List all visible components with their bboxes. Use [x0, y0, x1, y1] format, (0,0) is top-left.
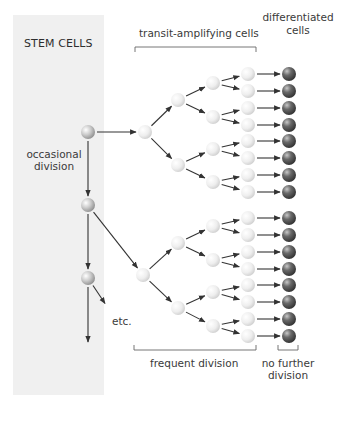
- differentiated-cell: [282, 262, 296, 276]
- differentiated-cell: [282, 295, 296, 309]
- arrow: [186, 312, 205, 322]
- transit-amplifying-cell: [241, 151, 255, 165]
- transit-bracket: [135, 47, 256, 52]
- arrow: [222, 328, 240, 333]
- differentiated-cell: [282, 134, 296, 148]
- arrow: [222, 76, 240, 81]
- arrow: [186, 104, 205, 113]
- stem-cells-title: STEM CELLS: [24, 38, 93, 50]
- no-further-division-line2: division: [258, 369, 318, 381]
- transit-amplifying-cell: [241, 329, 255, 343]
- transit-amplifying-cell: [206, 285, 220, 299]
- differentiated-cell: [282, 67, 296, 81]
- transit-amplifying-cell: [241, 262, 255, 276]
- arrow: [186, 87, 205, 96]
- differentiated-cell: [282, 101, 296, 115]
- differentiated-cell: [282, 245, 296, 259]
- differentiated-cell: [282, 312, 296, 326]
- frequent-division-label: frequent division: [150, 357, 238, 369]
- transit-amplifying-cell: [171, 236, 185, 250]
- differentiated-cell: [282, 84, 296, 98]
- arrow: [222, 287, 239, 290]
- transit-amplifying-cell: [241, 168, 255, 182]
- no-further-division-line1: no further: [258, 357, 318, 369]
- arrow: [222, 85, 239, 89]
- arrow: [186, 247, 205, 256]
- transit-amplifying-cell: [241, 312, 255, 326]
- differentiated-label-line2: cells: [258, 24, 338, 36]
- arrow: [222, 220, 239, 224]
- arrow: [222, 110, 240, 115]
- transit-amplifying-cell: [206, 219, 220, 233]
- transit-amplifying-cell: [206, 319, 220, 333]
- transit-amplifying-cell: [138, 125, 152, 139]
- arrow: [222, 321, 239, 324]
- stem-cell-diagram: STEM CELLS transit-amplifying cells diff…: [0, 0, 348, 437]
- occasional-division-line2: division: [22, 160, 86, 172]
- arrow: [186, 153, 205, 162]
- arrow: [222, 119, 239, 123]
- transit-amplifying-cell: [206, 142, 220, 156]
- transit-amplifying-cell: [241, 185, 255, 199]
- transit-amplifying-cell: [241, 278, 255, 292]
- differentiated-cell: [282, 278, 296, 292]
- differentiated-label-line1: differentiated: [258, 11, 338, 23]
- arrow: [222, 143, 239, 147]
- transit-amplifying-cell: [136, 268, 150, 282]
- arrows: [88, 47, 298, 350]
- arrow: [151, 138, 171, 158]
- transit-amplifying-cell: [171, 301, 185, 315]
- arrow: [186, 169, 205, 178]
- transit-amplifying-cell: [206, 253, 220, 267]
- etc-label: etc.: [112, 315, 132, 327]
- arrow: [222, 177, 239, 180]
- differentiated-cell: [282, 228, 296, 242]
- arrow: [222, 294, 240, 299]
- arrow: [186, 230, 205, 239]
- transit-amplifying-cell: [241, 245, 255, 259]
- transit-amplifying-cell: [241, 211, 255, 225]
- transit-amplifying-cell: [171, 93, 185, 107]
- transit-amplifying-cell: [241, 84, 255, 98]
- arrow: [151, 106, 171, 125]
- no-further-division-bracket: [278, 345, 298, 350]
- stem-cell: [81, 198, 95, 212]
- occasional-division-line1: occasional: [22, 148, 86, 160]
- arrow: [222, 151, 240, 156]
- arrow: [222, 184, 240, 189]
- transit-amplifying-cell: [206, 175, 220, 189]
- differentiated-cell: [282, 151, 296, 165]
- arrow: [186, 296, 205, 305]
- stem-cell: [81, 271, 95, 285]
- transit-amplifying-cell: [171, 158, 185, 172]
- transit-amplifying-label: transit-amplifying cells: [139, 27, 259, 39]
- arrow: [150, 249, 172, 269]
- transit-amplifying-cell: [241, 67, 255, 81]
- stem-cell: [81, 125, 95, 139]
- transit-amplifying-cell: [241, 101, 255, 115]
- differentiated-cell: [282, 168, 296, 182]
- differentiated-cell: [282, 329, 296, 343]
- arrow: [222, 254, 239, 258]
- arrow: [222, 228, 240, 233]
- arrow: [150, 281, 172, 302]
- transit-amplifying-cell: [241, 118, 255, 132]
- differentiated-cell: [282, 211, 296, 225]
- transit-amplifying-cell: [206, 110, 220, 124]
- transit-amplifying-cell: [241, 134, 255, 148]
- differentiated-cell: [282, 185, 296, 199]
- arrow: [222, 262, 240, 267]
- transit-amplifying-cell: [206, 76, 220, 90]
- transit-amplifying-cell: [241, 228, 255, 242]
- frequent-division-bracket: [134, 345, 256, 350]
- transit-amplifying-cell: [241, 295, 255, 309]
- differentiated-cell: [282, 118, 296, 132]
